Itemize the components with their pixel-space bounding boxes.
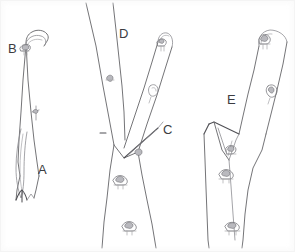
- line-drawing: B A D C E: [0, 0, 295, 252]
- label-D: D: [119, 26, 129, 41]
- bud-node-top-right: [259, 34, 270, 49]
- bud-node-below-crotch-middle: [135, 149, 142, 155]
- label-C: C: [163, 122, 173, 137]
- bud-node-trunk-upper-right: [219, 170, 233, 184]
- label-E: E: [227, 92, 236, 107]
- bud-node-leader-middle: [106, 75, 114, 81]
- bud-node-mid-left: [32, 106, 39, 120]
- label-A: A: [38, 162, 47, 177]
- figure-labels: B A D C E: [8, 26, 236, 177]
- panel-middle-fork: [86, 3, 173, 248]
- figure-canvas: B A D C E: [0, 0, 295, 252]
- label-B: B: [8, 41, 17, 56]
- bud-node-below-union-right: [226, 145, 236, 154]
- bud-node-trunk-lower-middle: [122, 222, 136, 236]
- panel-right-tear: [204, 30, 287, 248]
- bud-node-branch-mid-right: [266, 85, 277, 104]
- bud-node-trunk-lower-right: [225, 222, 240, 235]
- bud-node-trunk-upper-middle: [113, 176, 127, 190]
- bud-node-branch-mid-middle: [149, 85, 159, 103]
- bud-node-branch-tip-middle: [157, 39, 166, 51]
